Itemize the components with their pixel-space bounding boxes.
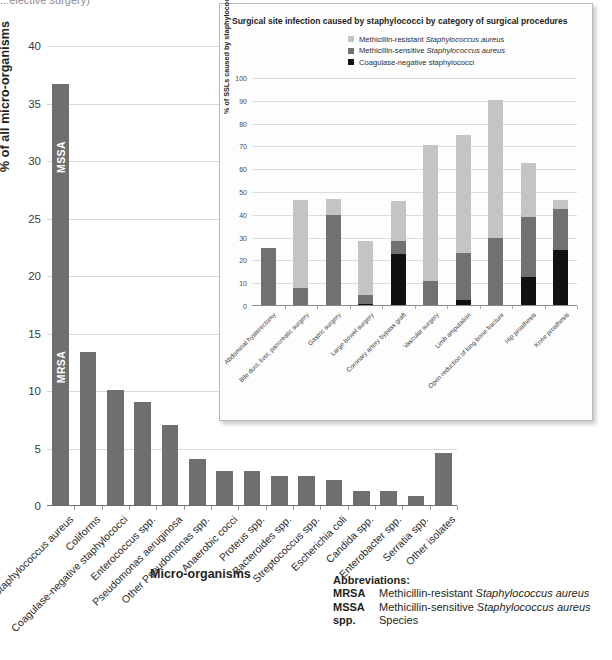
inset-x-tick-label: Knee prosthesis [532, 311, 569, 348]
inset-bar-segment [326, 215, 341, 305]
main-bar[interactable] [353, 491, 369, 505]
inset-legend-item[interactable]: Methicillin-sensitive Staphylococcus aur… [348, 46, 505, 56]
inset-bar-segment [521, 217, 536, 276]
inset-y-tick-label: 80 [239, 120, 247, 127]
inset-stacked-bar[interactable] [391, 201, 406, 305]
abbreviation-value: Methicillin-resistant Staphylococcus aur… [379, 587, 589, 601]
main-x-tick-mark [430, 506, 431, 510]
inset-x-tick-label: Coronary artery bypass graft [345, 311, 407, 373]
inset-chart-panel: Surgical site infection caused by staphy… [219, 3, 593, 421]
inset-legend-item[interactable]: Coagulase-negative staphylococci [348, 57, 505, 67]
abbreviations-rows: MRSAMethicillin-resistant Staphylococcus… [333, 587, 603, 628]
main-bar[interactable] [134, 402, 150, 506]
inset-legend-swatch-icon [348, 36, 354, 42]
inset-x-tick-label: Abdominal hysterectomy [223, 311, 277, 365]
inset-stacked-bar[interactable] [293, 200, 308, 305]
inset-bar-segment [423, 145, 438, 281]
main-bar[interactable] [162, 425, 178, 506]
main-x-tick-mark [320, 506, 321, 510]
main-bar[interactable] [435, 453, 451, 505]
main-y-tick-label: 30 [28, 155, 41, 167]
inset-y-tick-label: 100 [235, 75, 247, 82]
main-x-tick-mark [156, 506, 157, 510]
inset-x-tick-mark [512, 306, 513, 309]
inset-y-tick-label: 90 [239, 97, 247, 104]
inset-stacked-bar[interactable] [521, 163, 536, 306]
inset-bar-segment [488, 100, 503, 238]
main-y-tick-label: 40 [28, 40, 41, 52]
main-bar[interactable] [271, 476, 287, 505]
inset-gridline [252, 124, 577, 125]
inset-stacked-bar[interactable] [553, 200, 568, 305]
main-y-tick-label: 15 [28, 328, 41, 340]
main-bar[interactable] [189, 459, 205, 505]
inset-gridline [252, 101, 577, 102]
inset-bar-segment [488, 238, 503, 305]
main-bar[interactable] [298, 476, 314, 505]
inset-y-tick-label: 50 [239, 189, 247, 196]
main-bar[interactable] [216, 471, 232, 506]
abbreviation-key: MRSA [333, 587, 379, 601]
main-bar[interactable] [244, 471, 260, 506]
abbreviation-row: spp.Species [333, 614, 603, 628]
abbreviation-row: MRSAMethicillin-resistant Staphylococcus… [333, 587, 603, 601]
main-bar[interactable] [107, 390, 123, 505]
inset-legend-swatch-icon [348, 48, 354, 54]
main-bar[interactable] [408, 496, 424, 505]
main-x-tick-mark [457, 506, 458, 510]
inset-bar-segment [521, 163, 536, 218]
inset-title: Surgical site infection caused by staphy… [232, 16, 567, 26]
inset-bar-segment [326, 199, 341, 215]
inset-x-tick-label: Hip prosthesis [504, 311, 538, 345]
inset-legend-item[interactable]: Methicillin-resistant Staphylococcus aur… [348, 34, 505, 44]
main-x-tick-mark [129, 506, 130, 510]
inset-bar-segment [521, 277, 536, 306]
main-bar-segment: MSSA [52, 83, 68, 229]
main-x-tick-mark [266, 506, 267, 510]
inset-stacked-bar[interactable] [456, 135, 471, 305]
abbreviation-key: spp. [333, 614, 379, 628]
inset-bar-segment [391, 201, 406, 241]
inset-bar-segment [358, 304, 373, 305]
main-y-tick-label: 0 [35, 500, 41, 512]
inset-stacked-bar[interactable] [423, 145, 438, 305]
inset-x-tick-mark [285, 306, 286, 309]
main-bar[interactable] [80, 352, 96, 505]
main-x-tick-mark [348, 506, 349, 510]
main-bar[interactable] [326, 480, 342, 505]
inset-bar-segment [553, 250, 568, 305]
inset-gridline [252, 78, 577, 79]
inset-plot-area: 0102030405060708090100 [252, 78, 577, 306]
inset-x-tick-mark [415, 306, 416, 309]
inset-stacked-bar[interactable] [326, 199, 341, 305]
main-x-tick-label: Coagulase-negative staphylococci [9, 513, 130, 634]
main-y-tick-label: 25 [28, 213, 41, 225]
inset-x-tick-mark [447, 306, 448, 309]
inset-stacked-bar[interactable] [261, 248, 276, 305]
inset-y-axis-label: % of SSLs caused by staphylococci [222, 0, 231, 114]
inset-legend-label: Methicillin-sensitive Staphylococcus aur… [359, 46, 505, 55]
main-x-axis [47, 505, 457, 506]
main-bar[interactable]: MSSAMRSA [52, 84, 68, 505]
inset-x-tick-mark [545, 306, 546, 309]
inset-bar-segment [553, 209, 568, 250]
inset-y-tick-label: 30 [239, 234, 247, 241]
main-bar[interactable] [380, 491, 396, 505]
inset-bar-segment [261, 248, 276, 305]
main-x-tick-mark [238, 506, 239, 510]
inset-legend-label: Methicillin-resistant Staphylococcus aur… [359, 35, 504, 44]
inset-stacked-bar[interactable] [488, 100, 503, 305]
inset-legend: Methicillin-resistant Staphylococcus aur… [348, 34, 505, 69]
main-bar-segment-label: MSSA [55, 141, 67, 173]
inset-x-tick-mark [382, 306, 383, 309]
inset-stacked-bar[interactable] [358, 241, 373, 305]
main-x-tick-mark [293, 506, 294, 510]
inset-x-tick-mark [577, 306, 578, 309]
main-y-axis-label: % of all micro-organisms [0, 0, 12, 172]
inset-y-tick-label: 20 [239, 257, 247, 264]
main-x-tick-mark [102, 506, 103, 510]
inset-x-tick-mark [317, 306, 318, 309]
abbreviation-value: Species [379, 614, 418, 628]
inset-bar-segment [456, 253, 471, 301]
inset-x-tick-mark [480, 306, 481, 309]
